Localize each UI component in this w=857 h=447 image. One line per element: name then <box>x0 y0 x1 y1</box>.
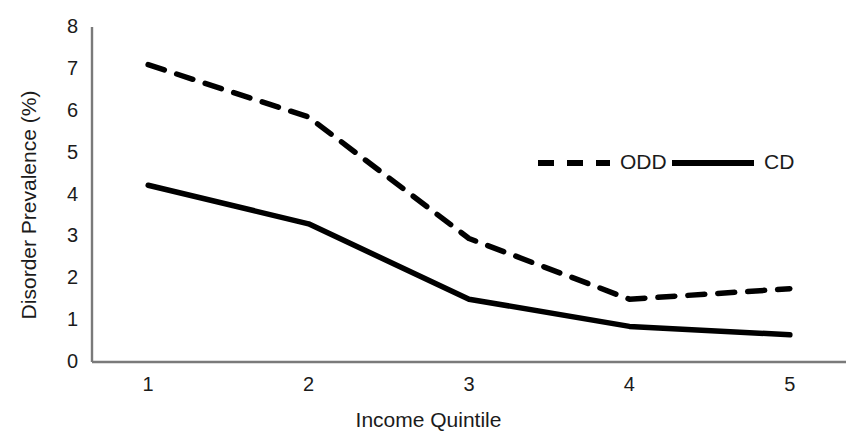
x-tick-label: 3 <box>449 374 489 394</box>
x-tick-label: 2 <box>289 374 329 394</box>
x-tick-label: 1 <box>128 374 168 394</box>
legend-label-odd: ODD <box>620 150 667 174</box>
series-line-odd <box>148 65 790 300</box>
y-tick-label: 4 <box>48 184 78 204</box>
series-layer <box>148 65 790 335</box>
y-tick-label: 6 <box>48 100 78 120</box>
y-tick-label: 1 <box>48 309 78 329</box>
y-tick-label: 7 <box>48 58 78 78</box>
legend-label-cd: CD <box>764 150 794 174</box>
y-tick-label: 8 <box>48 16 78 36</box>
axis-lines <box>92 27 846 362</box>
y-tick-label: 0 <box>48 351 78 371</box>
y-tick-label: 5 <box>48 142 78 162</box>
y-tick-label: 2 <box>48 267 78 287</box>
chart-figure: Disorder Prevalence (%) Income Quintile … <box>0 0 857 447</box>
series-line-cd <box>148 185 790 334</box>
x-tick-label: 5 <box>770 374 810 394</box>
x-tick-label: 4 <box>609 374 649 394</box>
y-tick-label: 3 <box>48 225 78 245</box>
